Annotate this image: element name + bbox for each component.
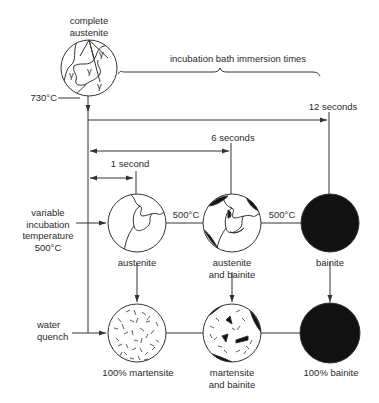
austenite-circle [108, 194, 168, 252]
martensite-bainite-circle [203, 304, 261, 362]
incubation-node-label-3: bainite [316, 257, 344, 269]
austenite-bainite-circle [203, 194, 262, 254]
heat-treatment-diagram: γ γ γ γ complete austenite 730°C incubat… [0, 0, 379, 403]
complete-austenite-label: complete austenite [70, 15, 109, 38]
time-label-1s: 1 second [111, 158, 150, 170]
bath-temp-label-1: 500°C [173, 209, 200, 221]
start-temperature-label: 730°C [30, 92, 57, 104]
incubation-node-label-2: austenite and bainite [209, 257, 255, 280]
svg-text:γ: γ [97, 80, 102, 91]
brace-label: incubation bath immersion times [170, 53, 306, 65]
svg-text:γ: γ [69, 69, 74, 80]
bainite-circle [301, 194, 359, 252]
martensite-circle [108, 304, 166, 362]
incubation-node-label-1: austenite [118, 257, 157, 269]
svg-text:γ: γ [87, 65, 92, 76]
time-label-12s: 12 seconds [309, 101, 358, 113]
svg-text:γ: γ [99, 48, 104, 59]
quench-node-label-1: 100% martensite [102, 367, 173, 379]
time-label-6s: 6 seconds [211, 132, 254, 144]
quench-node-label-3: 100% bainite [304, 367, 359, 379]
incubation-row-label: variable incubation temperature 500°C [22, 207, 73, 253]
bath-temp-label-2: 500°C [269, 209, 296, 221]
full-bainite-circle [300, 303, 360, 363]
quench-node-label-2: martensite and bainite [209, 367, 255, 390]
quench-row-label: water quench [37, 319, 68, 342]
